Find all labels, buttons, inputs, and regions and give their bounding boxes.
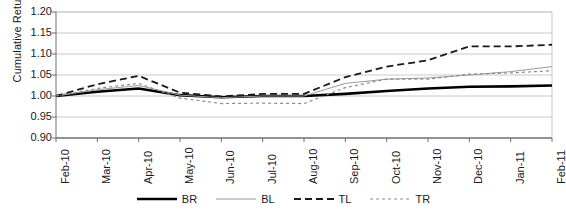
x-tick-label: Jan-11: [515, 151, 526, 184]
legend-label: TR: [415, 193, 430, 205]
cumulative-return-chart: Cumulative Return 0.900.951.001.051.101.…: [0, 0, 566, 211]
legend-label: TL: [339, 193, 352, 205]
x-tick-label: May-10: [184, 147, 195, 184]
legend-swatch-bl: [215, 194, 257, 204]
x-tick-label: Jul-10: [267, 154, 278, 184]
x-tick-label: Jun-10: [225, 150, 236, 184]
x-tick-label: Oct-10: [391, 151, 402, 184]
x-tick-label: Sep-10: [349, 149, 360, 184]
legend-item-bl[interactable]: BL: [215, 193, 274, 205]
legend-swatch-tl: [293, 194, 335, 204]
legend-label: BL: [261, 193, 274, 205]
legend-item-br[interactable]: BR: [136, 193, 197, 205]
x-tick-label: Feb-10: [60, 149, 71, 184]
x-tick-label: Mar-10: [101, 149, 112, 184]
x-tick-label: Feb-11: [556, 150, 566, 184]
x-axis-tick-labels: Feb-10Mar-10Apr-10May-10Jun-10Jul-10Aug-…: [0, 0, 566, 211]
legend-swatch-tr: [369, 194, 411, 204]
x-tick-label: Dec-10: [473, 149, 484, 184]
legend-item-tr[interactable]: TR: [369, 193, 430, 205]
x-tick-label: Nov-10: [432, 149, 443, 184]
chart-legend: BRBLTLTR: [0, 190, 566, 208]
legend-item-tl[interactable]: TL: [293, 193, 352, 205]
x-tick-label: Apr-10: [143, 151, 154, 184]
x-tick-label: Aug-10: [308, 149, 319, 184]
legend-label: BR: [182, 193, 197, 205]
legend-swatch-br: [136, 194, 178, 204]
